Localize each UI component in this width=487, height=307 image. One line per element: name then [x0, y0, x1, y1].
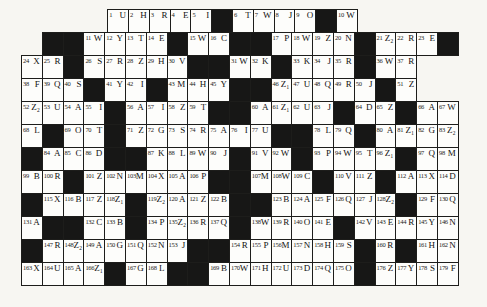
grid-cell-126[interactable]: 126Q: [333, 193, 355, 217]
grid-cell-153[interactable]: 153J: [167, 239, 189, 263]
grid-cell-2[interactable]: 2H: [128, 9, 150, 33]
grid-cell-111[interactable]: 111Z: [354, 170, 376, 194]
grid-cell-24[interactable]: 24X: [21, 55, 43, 79]
grid-cell-45[interactable]: 45Y: [208, 78, 230, 102]
grid-cell-166[interactable]: 166Z₁: [83, 262, 105, 286]
grid-cell-36[interactable]: 36W: [375, 55, 397, 79]
grid-cell-128[interactable]: 128Z₂: [375, 193, 397, 217]
grid-cell-140[interactable]: 140O: [291, 216, 313, 240]
grid-cell-38[interactable]: 38F: [21, 78, 43, 102]
grid-cell-50[interactable]: 50J: [354, 78, 376, 102]
grid-cell-159[interactable]: 159S: [333, 239, 355, 263]
grid-cell-176[interactable]: 176Z: [375, 262, 397, 286]
grid-cell-99[interactable]: 99B: [21, 170, 43, 194]
grid-cell-56[interactable]: 56A: [125, 101, 147, 125]
grid-cell-80[interactable]: 80A: [375, 124, 397, 148]
grid-cell-123[interactable]: 123B: [271, 193, 293, 217]
grid-cell-116[interactable]: 116B: [63, 193, 85, 217]
grid-cell-12[interactable]: 12Y: [104, 32, 126, 56]
grid-cell-21[interactable]: 21Z₂: [375, 32, 397, 56]
grid-cell-101[interactable]: 101Z: [83, 170, 105, 194]
grid-cell-26[interactable]: 26S: [83, 55, 105, 79]
grid-cell-177[interactable]: 177Y: [395, 262, 417, 286]
grid-cell-7[interactable]: 7W: [253, 9, 275, 33]
grid-cell-23[interactable]: 23E: [416, 32, 438, 56]
grid-cell-4[interactable]: 4E: [170, 9, 192, 33]
grid-cell-103[interactable]: 103M: [125, 170, 147, 194]
grid-cell-84[interactable]: 84A: [42, 147, 64, 171]
grid-cell-152[interactable]: 152N: [146, 239, 168, 263]
grid-cell-58[interactable]: 58Z: [167, 101, 189, 125]
grid-cell-44[interactable]: 44H: [187, 78, 209, 102]
grid-cell-94[interactable]: 94W: [333, 147, 355, 171]
grid-cell-124[interactable]: 124A: [291, 193, 313, 217]
grid-cell-78[interactable]: 78L: [312, 124, 334, 148]
grid-cell-13[interactable]: 13T: [125, 32, 147, 56]
grid-cell-68[interactable]: 68L: [21, 124, 43, 148]
grid-cell-163[interactable]: 163X: [21, 262, 43, 286]
grid-cell-17[interactable]: 17P: [271, 32, 293, 56]
grid-cell-129[interactable]: 129F: [416, 193, 438, 217]
grid-cell-148[interactable]: 148Z₂: [63, 239, 85, 263]
grid-cell-141[interactable]: 141E: [312, 216, 334, 240]
grid-cell-132[interactable]: 132C: [83, 216, 105, 240]
grid-cell-89[interactable]: 89W: [187, 147, 209, 171]
grid-cell-8[interactable]: 8J: [274, 9, 296, 33]
grid-cell-47[interactable]: 47U: [291, 78, 313, 102]
grid-cell-31[interactable]: 31W: [229, 55, 251, 79]
grid-cell-93[interactable]: 93P: [312, 147, 334, 171]
grid-cell-48[interactable]: 48Q: [312, 78, 334, 102]
grid-cell-139[interactable]: 139R: [271, 216, 293, 240]
grid-cell-169[interactable]: 169B: [208, 262, 230, 286]
grid-cell-70[interactable]: 70T: [83, 124, 105, 148]
grid-cell-59[interactable]: 59T: [187, 101, 209, 125]
grid-cell-10[interactable]: 10W: [336, 9, 358, 33]
grid-cell-114[interactable]: 114D: [437, 170, 459, 194]
grid-cell-19[interactable]: 19Z: [312, 32, 334, 56]
grid-cell-150[interactable]: 150G: [104, 239, 126, 263]
grid-cell-151[interactable]: 151Q: [125, 239, 147, 263]
grid-cell-91[interactable]: 91V: [250, 147, 272, 171]
grid-cell-146[interactable]: 146N: [437, 216, 459, 240]
grid-cell-88[interactable]: 88L: [167, 147, 189, 171]
grid-cell-15[interactable]: 15W: [187, 32, 209, 56]
grid-cell-16[interactable]: 16C: [208, 32, 230, 56]
grid-cell-136[interactable]: 136R: [187, 216, 209, 240]
grid-cell-113[interactable]: 113X: [416, 170, 438, 194]
grid-cell-168[interactable]: 168L: [146, 262, 168, 286]
grid-cell-82[interactable]: 82G: [416, 124, 438, 148]
grid-cell-134[interactable]: 134P: [146, 216, 168, 240]
grid-cell-137[interactable]: 137Q: [208, 216, 230, 240]
grid-cell-61[interactable]: 61Z₁: [271, 101, 293, 125]
grid-cell-52[interactable]: 52Z₂: [21, 101, 43, 125]
grid-cell-27[interactable]: 27R: [104, 55, 126, 79]
grid-cell-179[interactable]: 179F: [437, 262, 459, 286]
grid-cell-110[interactable]: 110V: [333, 170, 355, 194]
grid-cell-66[interactable]: 66A: [416, 101, 438, 125]
grid-cell-35[interactable]: 35R: [333, 55, 355, 79]
grid-cell-14[interactable]: 14E: [146, 32, 168, 56]
grid-cell-41[interactable]: 41Y: [104, 78, 126, 102]
grid-cell-25[interactable]: 25R: [42, 55, 64, 79]
grid-cell-97[interactable]: 97Q: [416, 147, 438, 171]
grid-cell-69[interactable]: 69O: [63, 124, 85, 148]
grid-cell-160[interactable]: 160R: [375, 239, 397, 263]
grid-cell-121[interactable]: 121Z: [187, 193, 209, 217]
grid-cell-46[interactable]: 46Z₁: [271, 78, 293, 102]
grid-cell-83[interactable]: 83Z₂: [437, 124, 459, 148]
grid-cell-112[interactable]: 112A: [395, 170, 417, 194]
grid-cell-125[interactable]: 125F: [312, 193, 334, 217]
grid-cell-86[interactable]: 86D: [83, 147, 105, 171]
grid-cell-120[interactable]: 120A: [167, 193, 189, 217]
grid-cell-5[interactable]: 5I: [190, 9, 212, 33]
grid-cell-81[interactable]: 81Z₁: [395, 124, 417, 148]
grid-cell-107[interactable]: 107M: [250, 170, 272, 194]
grid-cell-90[interactable]: 90J: [208, 147, 230, 171]
grid-cell-49[interactable]: 49R: [333, 78, 355, 102]
grid-cell-11[interactable]: 11W: [83, 32, 105, 56]
grid-cell-39[interactable]: 39Q: [42, 78, 64, 102]
grid-cell-135[interactable]: 135Z₂: [167, 216, 189, 240]
grid-cell-145[interactable]: 145Y: [416, 216, 438, 240]
grid-cell-142[interactable]: 142V: [354, 216, 376, 240]
grid-cell-53[interactable]: 53U: [42, 101, 64, 125]
